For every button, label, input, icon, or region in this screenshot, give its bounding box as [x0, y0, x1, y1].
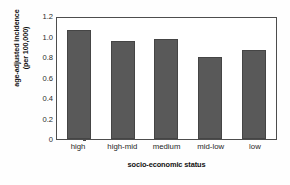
- x-axis-tick-label: medium: [144, 142, 188, 156]
- y-axis-tick-label: 0: [30, 136, 53, 144]
- y-axis-tick-label: 0.2: [30, 116, 53, 124]
- bar-high: [67, 30, 91, 139]
- bar-slot: [101, 18, 145, 139]
- y-axis-tick-label: 0.4: [30, 95, 53, 103]
- bar-slot: [57, 18, 101, 139]
- y-axis-title-line-1: age-adjusted incidence: [12, 9, 22, 86]
- y-axis-tick-labels: 00.20.40.60.81.01.2: [30, 17, 53, 140]
- bar-low: [242, 50, 266, 139]
- x-axis-tick-label: low: [233, 142, 277, 156]
- plot-area: [56, 17, 277, 140]
- y-axis-tick-label: 1.2: [30, 13, 53, 21]
- x-axis-tick-labels: highhigh-midmediummid-lowlow: [56, 142, 277, 156]
- bar-slot: [145, 18, 189, 139]
- y-axis-tick-label: 0.8: [30, 54, 53, 62]
- y-axis-tick-label: 0.6: [30, 75, 53, 83]
- bar-medium: [154, 39, 178, 139]
- bar-slot: [188, 18, 232, 139]
- bar-chart-figure: age-adjusted incidence (per 100,000) 00.…: [0, 0, 290, 185]
- y-axis-tick-mark: [83, 140, 86, 141]
- x-axis-tick-label: high: [56, 142, 100, 156]
- x-axis-title: socio-economic status: [56, 160, 277, 169]
- bar-mid-low: [198, 57, 222, 139]
- bar-slot: [232, 18, 276, 139]
- x-axis-tick-label: mid-low: [189, 142, 233, 156]
- bars-layer: [57, 18, 276, 139]
- bar-high-mid: [111, 41, 135, 139]
- x-axis-tick-label: high-mid: [100, 142, 144, 156]
- y-axis-tick-label: 1.0: [30, 34, 53, 42]
